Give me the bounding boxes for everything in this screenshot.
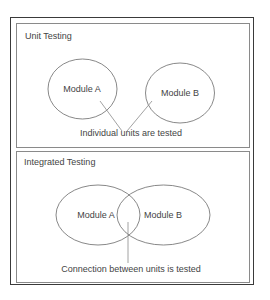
- integrated-testing-title: Integrated Testing: [24, 157, 95, 167]
- unit-testing-panel: Unit Testing: [16, 23, 250, 148]
- integrated-testing-panel: Integrated Testing: [16, 151, 250, 283]
- unit-testing-title: Unit Testing: [25, 31, 72, 41]
